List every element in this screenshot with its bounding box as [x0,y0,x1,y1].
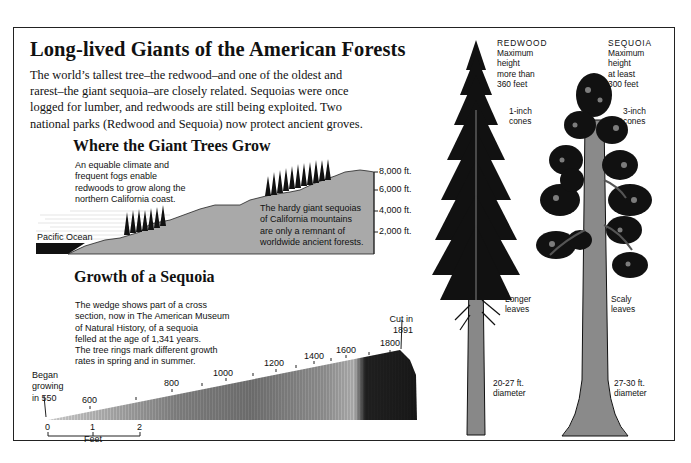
growth-note-line: of Natural History, of a sequoia [75,323,229,334]
coast-note-line: An equable climate and [75,160,186,171]
mountain-note-line: worldwide ancient forests. [260,237,364,248]
redwood-height-line: Maximum [497,48,547,58]
year-label-1400: 1400 [304,351,324,362]
sequoia-diameter-note: 27-30 ft. diameter [614,378,647,398]
began-line: Began [32,370,64,381]
redwood-leaves-note: Longer leaves [505,294,531,314]
year-label-1000: 1000 [213,368,233,379]
redwood-height-note: REDWOOD Maximum height more than 360 fee… [497,38,547,89]
year-label-800: 800 [164,378,179,389]
elevation-tick-8000: 8,000 ft. [379,166,412,177]
sequoia-cones-line: cones [623,116,646,126]
redwood-height-line: more than [497,69,547,79]
scale-tick-2: 2 [137,422,142,433]
sequoia-cones-line: 3-inch [623,106,646,116]
coast-note: An equable climate and frequent fogs ena… [75,160,186,205]
coast-note-line: northern California coast. [75,194,186,205]
sequoia-height-note: SEQUOIA Maximum height at least 300 feet [608,38,652,89]
year-label-1800: 1800 [380,338,400,349]
elevation-tick-2000: 2,000 ft. [379,226,412,237]
redwood-name: REDWOOD [497,38,547,48]
redwood-height-line: height [497,58,547,68]
sequoia-height-line: height [608,58,652,68]
scale-unit: Feet [84,434,102,445]
ocean-label: Pacific Ocean [37,232,93,243]
sequoia-leaves-line: Scaly [611,294,635,304]
elevation-tick-4000: 4,000 ft. [379,205,412,216]
began-line: growing [32,381,64,392]
redwood-diameter-note: 20-27 ft. diameter [493,378,526,398]
mountain-note-line: are only a remnant of [260,226,364,237]
growth-note-line: The wedge shows part of a cross [75,300,229,311]
mountain-note-line: The hardy giant sequoias [260,203,364,214]
redwood-illustration [432,40,520,435]
growth-heading: Growth of a Sequoia [74,268,215,286]
year-label-1200: 1200 [264,358,284,369]
sequoia-diameter-line: 27-30 ft. [614,378,647,388]
mountain-note: The hardy giant sequoias of California m… [260,203,364,248]
mountain-note-line: of California mountains [260,214,364,225]
growth-note-line: The tree rings mark different growth [75,345,229,356]
coast-note-line: redwoods to grow along the [75,183,186,194]
cut-line: Cut in [389,314,413,325]
growth-note: The wedge shows part of a cross section,… [75,300,229,368]
scale-tick-1: 1 [90,422,95,433]
redwood-cones-line: cones [509,116,532,126]
year-label-600: 600 [82,395,97,406]
coast-note-line: frequent fogs enable [75,171,186,182]
growth-note-line: section, now in The American Museum [75,311,229,322]
redwood-height-line: 360 feet [497,79,547,89]
redwood-diameter-line: 20-27 ft. [493,378,526,388]
sequoia-diameter-line: diameter [614,388,647,398]
redwood-leaves-line: Longer [505,294,531,304]
sequoia-name: SEQUOIA [608,38,652,48]
scale-tick-0: 0 [45,422,50,433]
sequoia-height-line: at least [608,69,652,79]
redwood-diameter-line: diameter [493,388,526,398]
sequoia-cones-note: 3-inch cones [623,106,646,126]
redwood-cones-line: 1-inch [509,106,532,116]
year-label-1600: 1600 [336,345,356,356]
redwood-cones-note: 1-inch cones [509,106,532,126]
cut-label: Cut in 1891 [389,314,413,337]
began-line: in 550 [32,393,64,404]
growth-note-line: rates in spring and in summer. [75,356,229,367]
sequoia-height-line: 300 feet [608,79,652,89]
elevation-tick-6000: 6,000 ft. [379,184,412,195]
growth-note-line: felled at the age of 1,341 years. [75,334,229,345]
sequoia-leaves-note: Scaly leaves [611,294,635,314]
redwood-leaves-line: leaves [505,304,531,314]
sequoia-leaves-line: leaves [611,304,635,314]
sequoia-height-line: Maximum [608,48,652,58]
cut-line: 1891 [389,325,413,336]
began-growing-label: Began growing in 550 [32,370,64,404]
